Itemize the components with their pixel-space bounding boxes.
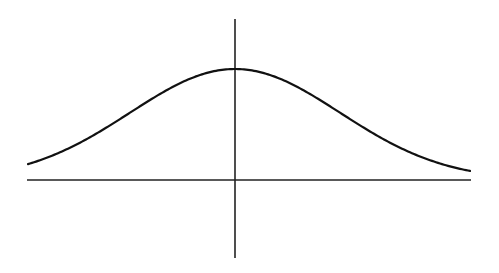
- bell-curve-diagram: [0, 0, 499, 273]
- background: [0, 0, 499, 273]
